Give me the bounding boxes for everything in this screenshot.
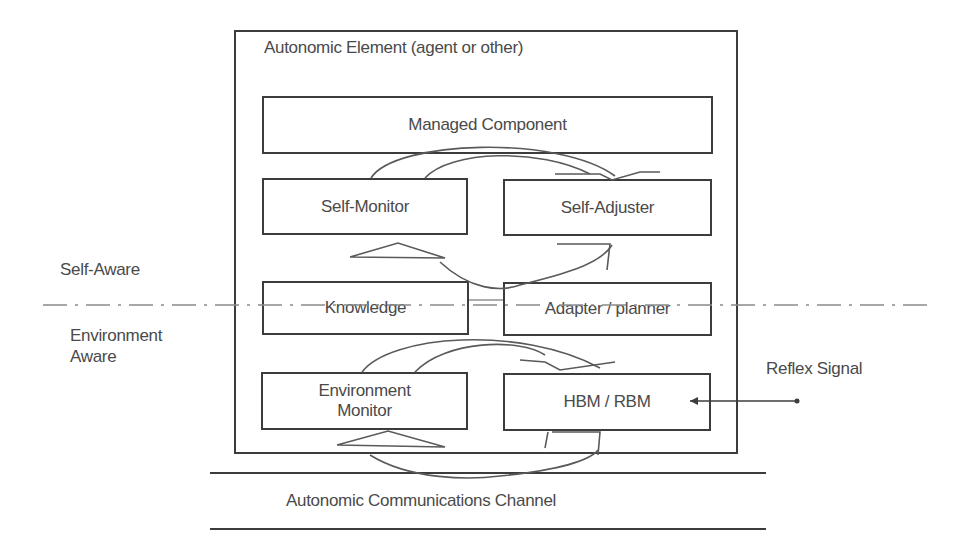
loop-arrow-knowledge-self bbox=[350, 243, 612, 288]
loop-arrow-knowledge-hbm bbox=[362, 340, 615, 372]
diagram-connectors bbox=[0, 0, 970, 555]
loop-arrow-monitor-adjust bbox=[371, 147, 660, 180]
loop-arrow-environment-channel bbox=[337, 431, 600, 478]
reflex-signal-arrow bbox=[690, 397, 800, 405]
